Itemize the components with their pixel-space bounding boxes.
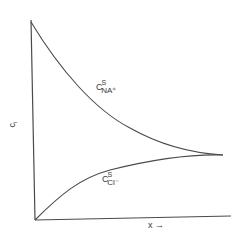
curve-cl	[35, 155, 223, 220]
cl-label-sup: S	[108, 171, 113, 178]
y-axis	[31, 20, 35, 220]
na-curve-label: CSNA⁺	[96, 83, 116, 92]
y-axis-label: ci	[8, 122, 17, 128]
diagram-canvas	[0, 0, 236, 238]
x-axis-label: x →	[148, 221, 164, 230]
curve-na	[31, 22, 223, 155]
cl-label-sub: Cl⁻	[107, 178, 119, 187]
na-label-sup: S	[102, 79, 107, 86]
x-axis	[35, 216, 231, 220]
cl-curve-label: CSCl⁻	[102, 175, 119, 184]
na-label-sub: NA⁺	[101, 86, 116, 95]
y-axis-label-main: c	[7, 123, 17, 128]
